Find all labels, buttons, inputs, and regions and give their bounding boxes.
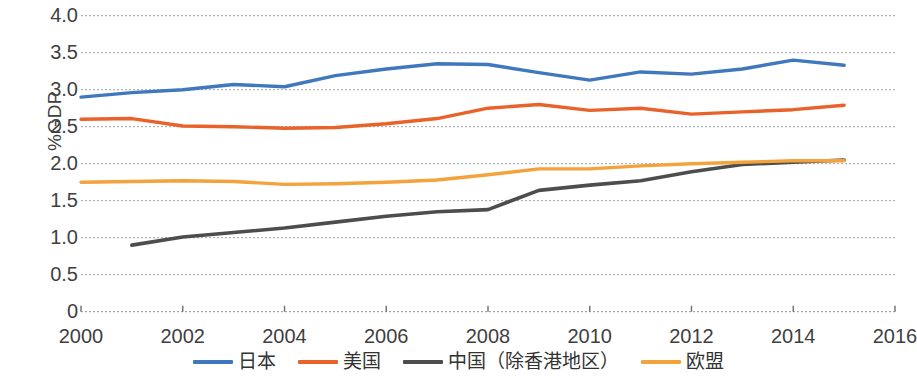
legend-label: 美国 [343,352,381,371]
legend-label: 欧盟 [686,352,724,371]
legend-item[interactable]: 美国 [298,352,381,371]
series-line-3 [132,160,844,245]
legend-label: 日本 [238,352,276,371]
series-line-4 [81,161,844,185]
legend-color-swatch [641,360,681,364]
plot-area [0,0,917,380]
line-chart: %GDP 4.03.53.02.52.01.51.00.50 200020022… [0,0,917,380]
legend-item[interactable]: 日本 [193,352,276,371]
legend-item[interactable]: 欧盟 [641,352,724,371]
legend-label: 中国（除香港地区） [448,352,619,371]
legend-item[interactable]: 中国（除香港地区） [403,352,619,371]
legend-color-swatch [193,360,233,364]
chart-legend: 日本美国中国（除香港地区）欧盟 [0,352,917,371]
legend-color-swatch [403,360,443,364]
series-line-1 [81,60,844,97]
series-line-2 [81,105,844,129]
legend-color-swatch [298,360,338,364]
